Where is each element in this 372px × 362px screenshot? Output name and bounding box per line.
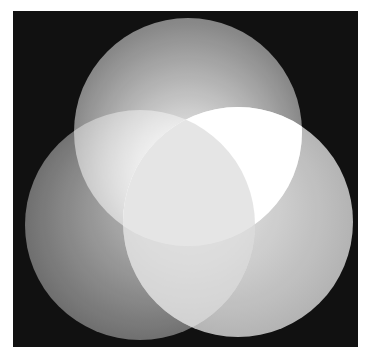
diagram-frame	[13, 11, 358, 347]
venn-diagram	[13, 11, 358, 347]
